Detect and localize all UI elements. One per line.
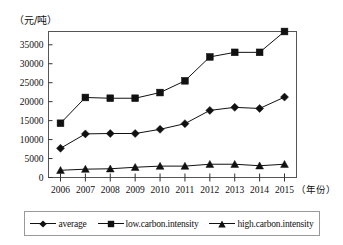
plot-area: 05000100001500020000250003000035000 2006… [0, 0, 343, 210]
square-marker-icon [132, 95, 139, 102]
legend-label-average: average [58, 219, 86, 229]
y-tick-label: 35000 [20, 40, 44, 50]
x-axis-unit-label: （年份） [296, 182, 336, 196]
triangle-marker-icon [209, 219, 235, 229]
legend-label-low-carbon-intensity: low.carbon.intensity [126, 219, 199, 229]
series-high.carbon.intensity [57, 160, 289, 173]
y-tick-label: 30000 [20, 59, 44, 69]
series-line [61, 32, 285, 124]
legend-item-high-carbon-intensity[interactable]: high.carbon.intensity [209, 219, 313, 229]
y-axis-ticks: 05000100001500020000250003000035000 [20, 40, 53, 183]
diamond-marker-icon [81, 130, 89, 138]
diamond-marker-icon [231, 103, 239, 111]
y-tick-label: 15000 [20, 116, 44, 126]
x-tick-label: 2007 [76, 185, 95, 195]
diamond-marker-icon [57, 144, 65, 152]
diamond-marker-icon [181, 120, 189, 128]
x-tick-label: 2013 [225, 185, 244, 195]
x-tick-label: 2009 [126, 185, 145, 195]
square-marker-icon [256, 49, 263, 56]
x-axis-tick-labels: 2006200720082009201020112012201320142015 [51, 185, 294, 195]
y-tick-label: 20000 [20, 97, 44, 107]
series-low.carbon.intensity [57, 28, 288, 127]
series-line [61, 97, 285, 148]
x-tick-label: 2006 [51, 185, 70, 195]
x-tick-label: 2011 [176, 185, 195, 195]
x-tick-label: 2015 [275, 185, 294, 195]
diamond-marker-icon [106, 130, 114, 138]
series-line [61, 164, 285, 170]
diamond-marker-icon [256, 104, 264, 112]
diamond-marker-icon [30, 219, 56, 229]
chart-legend: average low.carbon.intensity high.carbon… [24, 211, 320, 236]
legend-item-average[interactable]: average [30, 219, 86, 229]
square-marker-icon [82, 94, 89, 101]
square-marker-icon [182, 77, 189, 84]
square-marker-icon [231, 49, 238, 56]
x-tick-label: 2012 [200, 185, 219, 195]
diamond-marker-icon [131, 130, 139, 138]
chart-container: （元/吨） 0500010000150002000025000300003500… [0, 0, 343, 245]
diamond-marker-icon [206, 106, 214, 114]
square-marker-icon [98, 219, 124, 229]
legend-label-high-carbon-intensity: high.carbon.intensity [237, 219, 313, 229]
y-tick-label: 0 [39, 173, 44, 183]
diamond-marker-icon [281, 93, 289, 101]
y-tick-label: 5000 [25, 154, 44, 164]
series-average [57, 93, 289, 152]
x-tick-label: 2010 [151, 185, 170, 195]
y-tick-label: 25000 [20, 78, 44, 88]
series-layer [57, 28, 289, 173]
diamond-marker-icon [156, 125, 164, 133]
square-marker-icon [157, 89, 164, 96]
x-tick-label: 2008 [101, 185, 120, 195]
square-marker-icon [281, 28, 288, 35]
x-tick-label: 2014 [250, 185, 269, 195]
y-tick-label: 10000 [20, 135, 44, 145]
square-marker-icon [206, 54, 213, 61]
square-marker-icon [107, 95, 114, 102]
square-marker-icon [57, 120, 64, 127]
legend-item-low-carbon-intensity[interactable]: low.carbon.intensity [98, 219, 199, 229]
